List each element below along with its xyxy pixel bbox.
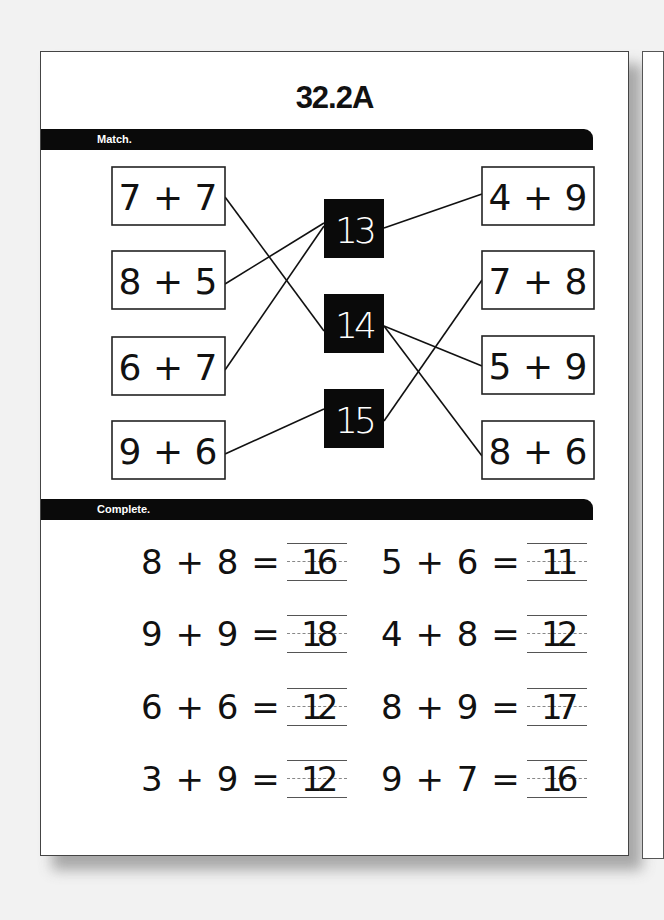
line-8plus5-to-13 — [225, 223, 324, 284]
equation-expression: 4 + 8 = — [381, 614, 521, 654]
right-column: 4 + 9 7 + 8 5 + 9 8 + 6 — [482, 167, 594, 479]
equation-row4-right: 9 + 7 = 16 — [381, 759, 587, 799]
left-box-4: 9 + 6 — [112, 421, 225, 479]
equation-row2-left: 9 + 9 = 18 — [141, 614, 347, 654]
line-15-to-7plus8 — [384, 280, 482, 421]
section-label: Complete. — [97, 503, 150, 515]
answer-field[interactable]: 18 — [287, 615, 347, 653]
answer-value: 12 — [287, 687, 347, 727]
left-column: 7 + 7 8 + 5 6 + 7 9 + 6 — [112, 167, 225, 479]
equation-expression: 6 + 6 = — [141, 687, 281, 727]
equation-row3-left: 6 + 6 = 12 — [141, 687, 347, 727]
answer-value: 17 — [527, 687, 587, 727]
equation-row4-left: 3 + 9 = 12 — [141, 759, 347, 799]
svg-text:7 + 8: 7 + 8 — [489, 261, 588, 302]
answer-value: 16 — [287, 542, 347, 582]
answer-value: 12 — [527, 614, 587, 654]
svg-text:15: 15 — [335, 400, 373, 441]
svg-text:14: 14 — [335, 305, 375, 346]
equation-expression: 9 + 7 = — [381, 759, 521, 799]
matching-diagram: 7 + 7 8 + 5 6 + 7 9 + 6 13 14 — [41, 52, 628, 855]
answer-value: 12 — [287, 759, 347, 799]
next-page-edge — [642, 51, 664, 859]
svg-text:6 + 7: 6 + 7 — [119, 347, 218, 388]
equation-row1-right: 5 + 6 = 11 — [381, 542, 587, 582]
answer-box-14: 14 — [324, 294, 384, 353]
svg-text:8 + 5: 8 + 5 — [119, 261, 218, 302]
left-box-1: 7 + 7 — [112, 167, 225, 225]
svg-text:7 + 7: 7 + 7 — [119, 177, 218, 218]
answer-field[interactable]: 12 — [287, 688, 347, 726]
equation-expression: 8 + 8 = — [141, 542, 281, 582]
equation-expression: 9 + 9 = — [141, 614, 281, 654]
line-6plus7-to-13 — [225, 226, 324, 370]
right-box-1: 4 + 9 — [482, 167, 594, 225]
svg-text:5 + 9: 5 + 9 — [489, 346, 588, 387]
right-box-3: 5 + 9 — [482, 336, 594, 394]
svg-text:8 + 6: 8 + 6 — [489, 431, 588, 472]
right-box-4: 8 + 6 — [482, 421, 594, 479]
equation-expression: 5 + 6 = — [381, 542, 521, 582]
answer-field[interactable]: 17 — [527, 688, 587, 726]
answer-value: 16 — [527, 759, 587, 799]
answer-value: 11 — [527, 542, 587, 582]
equation-row2-right: 4 + 8 = 12 — [381, 614, 587, 654]
svg-text:13: 13 — [335, 210, 374, 251]
svg-text:4 + 9: 4 + 9 — [489, 177, 588, 218]
line-13-to-4plus9 — [384, 194, 482, 228]
answer-field[interactable]: 12 — [287, 760, 347, 798]
equation-row3-right: 8 + 9 = 17 — [381, 687, 587, 727]
answer-column: 13 14 15 — [324, 199, 384, 448]
svg-text:9 + 6: 9 + 6 — [119, 431, 218, 472]
left-box-2: 8 + 5 — [112, 251, 225, 309]
equation-row1-left: 8 + 8 = 16 — [141, 542, 347, 582]
equation-expression: 3 + 9 = — [141, 759, 281, 799]
right-box-2: 7 + 8 — [482, 251, 594, 309]
answer-field[interactable]: 12 — [527, 615, 587, 653]
section-header-complete: Complete. — [41, 499, 593, 520]
answer-field[interactable]: 16 — [287, 543, 347, 581]
worksheet-page: 32.2A Match. 7 + 7 8 + 5 — [40, 51, 629, 856]
answer-box-13: 13 — [324, 199, 384, 258]
line-9plus6-to-15 — [225, 409, 324, 454]
left-box-3: 6 + 7 — [112, 337, 225, 395]
answer-field[interactable]: 11 — [527, 543, 587, 581]
equation-expression: 8 + 9 = — [381, 687, 521, 727]
answer-field[interactable]: 16 — [527, 760, 587, 798]
answer-value: 18 — [287, 614, 347, 654]
line-7plus7-to-14 — [225, 197, 324, 331]
answer-box-15: 15 — [324, 389, 384, 448]
